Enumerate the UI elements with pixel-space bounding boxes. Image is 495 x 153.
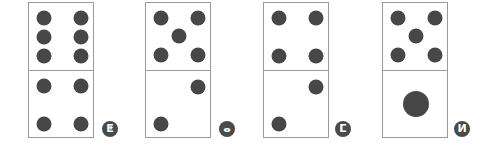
pip: [191, 48, 206, 63]
domino-bottom-half: [146, 70, 210, 137]
pip: [37, 49, 52, 64]
domino-bottom-half: [383, 70, 447, 137]
pip: [309, 49, 324, 64]
pip: [309, 80, 324, 95]
pip: [191, 80, 206, 95]
pip: [37, 79, 52, 94]
pip: [391, 11, 406, 26]
pip: [191, 11, 206, 26]
pip: [74, 30, 89, 45]
option-b-marker-icon[interactable]: ⴰ: [219, 121, 235, 137]
pip: [309, 11, 324, 26]
option-a-marker-icon[interactable]: ⵟ: [102, 121, 118, 137]
domino-option-1[interactable]: [28, 2, 94, 138]
pip: [74, 117, 89, 132]
pip: [154, 117, 169, 132]
domino-option-4[interactable]: [382, 2, 448, 138]
pip: [409, 29, 424, 44]
domino-bottom-half: [264, 70, 328, 137]
pip: [172, 29, 187, 44]
pip: [272, 49, 287, 64]
option-c-marker-icon[interactable]: ⵎ: [335, 121, 351, 137]
domino-bottom-half: [29, 70, 93, 137]
pip: [37, 117, 52, 132]
pip: [37, 11, 52, 26]
domino-top-half: [383, 3, 447, 70]
pip: [428, 48, 443, 63]
large-pip: [403, 91, 429, 117]
domino-option-2[interactable]: [145, 2, 211, 138]
pip: [154, 11, 169, 26]
pip: [74, 79, 89, 94]
domino-option-3[interactable]: [263, 2, 329, 138]
pip: [391, 48, 406, 63]
pip: [37, 30, 52, 45]
pip: [74, 49, 89, 64]
pip: [272, 11, 287, 26]
pip: [74, 11, 89, 26]
pip: [154, 48, 169, 63]
domino-top-half: [29, 3, 93, 70]
option-d-marker-icon[interactable]: ⵍ: [454, 121, 470, 137]
domino-top-half: [146, 3, 210, 70]
pip: [272, 117, 287, 132]
pip: [428, 11, 443, 26]
domino-top-half: [264, 3, 328, 70]
